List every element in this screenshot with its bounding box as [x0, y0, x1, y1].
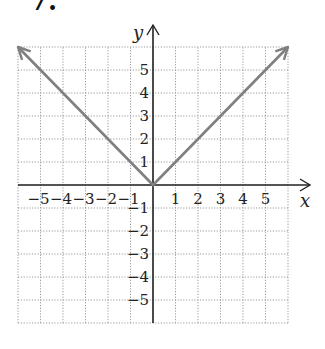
- y-tick-label: −1: [127, 199, 149, 217]
- y-tick-label: 5: [139, 61, 149, 79]
- x-tick-label: −4: [50, 190, 72, 208]
- y-tick-label: 3: [139, 107, 149, 125]
- y-tick-label: 4: [139, 84, 149, 102]
- y-axis-label: y: [132, 22, 144, 43]
- y-tick-label: −3: [127, 245, 149, 263]
- y-tick-label: −4: [127, 268, 149, 286]
- y-tick-label: −2: [127, 222, 149, 240]
- x-tick-label: −3: [72, 190, 94, 208]
- x-tick-label: 5: [261, 190, 271, 208]
- x-tick-label: 2: [193, 190, 203, 208]
- x-axis-label: x: [300, 190, 310, 211]
- x-tick-label: 1: [171, 190, 181, 208]
- y-tick-label: 2: [139, 130, 149, 148]
- x-tick-label: 4: [238, 190, 248, 208]
- x-tick-label: −2: [95, 190, 117, 208]
- y-tick-label: 1: [139, 153, 149, 171]
- y-tick-label: −5: [127, 291, 149, 309]
- x-tick-label: 3: [216, 190, 226, 208]
- coordinate-plane: −5−4−3−2−112345−5−4−3−2−112345 x y: [0, 0, 325, 349]
- x-tick-label: −5: [27, 190, 49, 208]
